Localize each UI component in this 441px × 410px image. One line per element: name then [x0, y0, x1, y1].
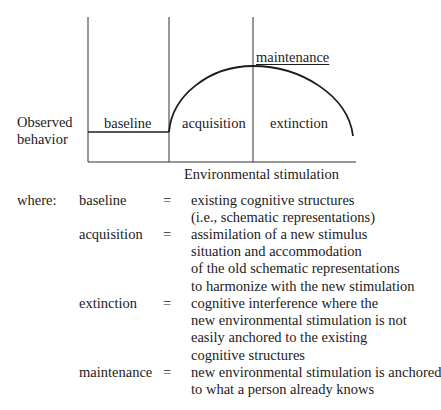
definition-line: new environmental stimulation is not — [191, 312, 407, 329]
behavior-phase-diagram: Observed behavior baseline acquisition e… — [0, 0, 436, 190]
legend-term: baseline — [79, 192, 127, 209]
phase-label-extinction: extinction — [270, 115, 328, 132]
y-axis-label: Observed behavior — [17, 114, 73, 148]
legend-definition: existing cognitive structures (i.e., sch… — [191, 192, 375, 226]
equals-sign: = — [163, 295, 171, 312]
definition-line: to harmonize with the new stimulation — [191, 278, 415, 295]
definition-line: assimilation of a new stimulus — [191, 226, 415, 243]
definition-line: new environmental stimulation is anchore… — [191, 364, 441, 381]
definition-line: existing cognitive structures — [191, 192, 375, 209]
legend-term: acquisition — [79, 226, 143, 243]
equals-sign: = — [163, 364, 171, 381]
y-axis-label-line1: Observed — [17, 114, 73, 131]
definition-line: situation and accommodation — [191, 243, 415, 260]
where-label: where: — [17, 192, 56, 209]
legend-definition: assimilation of a new stimulus situation… — [191, 226, 415, 295]
legend-definition: new environmental stimulation is anchore… — [191, 364, 441, 398]
equals-sign: = — [163, 192, 171, 209]
phase-label-acquisition: acquisition — [182, 115, 246, 132]
definition-line: cognitive structures — [191, 347, 407, 364]
diagram-lines — [0, 0, 436, 190]
equals-sign: = — [163, 226, 171, 243]
legend-term: maintenance — [79, 364, 152, 381]
phase-label-maintenance: maintenance — [256, 49, 329, 66]
definition-line: of the old schematic representations — [191, 260, 415, 277]
definition-line: cognitive interference where the — [191, 295, 407, 312]
legend-definition: cognitive interference where the new env… — [191, 295, 407, 364]
legend-term: extinction — [79, 295, 137, 312]
definition-line: (i.e., schematic representations) — [191, 209, 375, 226]
definition-line: to what a person already knows — [191, 381, 441, 398]
y-axis-label-line2: behavior — [17, 131, 73, 148]
phase-label-baseline: baseline — [104, 115, 152, 132]
definition-line: easily anchored to the existing — [191, 329, 407, 346]
x-axis-label: Environmental stimulation — [184, 166, 339, 183]
